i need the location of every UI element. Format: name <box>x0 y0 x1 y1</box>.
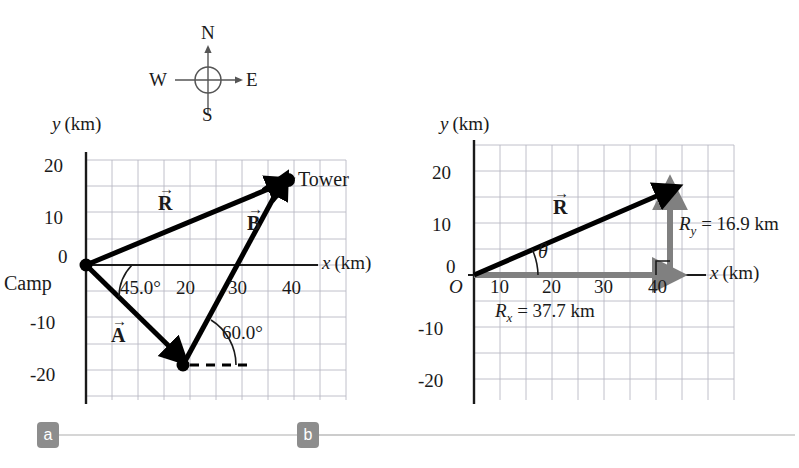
compass-rose <box>175 45 243 113</box>
camp-point <box>80 259 93 272</box>
panel-b-y-axis-label: y (km) <box>440 113 489 135</box>
panel-b-xtick-40: 40 <box>648 276 667 298</box>
panel-a-ytick-20: 20 <box>44 155 63 177</box>
panel-b-badge: b <box>297 422 319 448</box>
panel-b-ytick-neg20: -20 <box>418 370 443 392</box>
panel-a-vector-R-label: → R <box>158 192 172 215</box>
panel-b-ytick-0: 0 <box>446 256 456 278</box>
compass-north-label: N <box>201 22 215 44</box>
panel-b-xtick-20: 20 <box>542 276 561 298</box>
panel-b-xtick-30: 30 <box>594 276 613 298</box>
panel-b-ytick-10: 10 <box>432 214 451 236</box>
panel-b-angle-theta-label: θ <box>538 240 548 263</box>
panel-a-badge: a <box>37 422 59 448</box>
panel-a-ytick-neg10: -10 <box>30 312 55 334</box>
panel-b-xtick-10: 10 <box>490 276 509 298</box>
panel-a-ytick-10: 10 <box>44 207 63 229</box>
compass-west-label: W <box>149 69 167 91</box>
panel-b-vector-R-label: → R <box>553 196 567 219</box>
panel-a-angle-45-label: 45.0° <box>120 277 161 299</box>
panel-b-origin-label: O <box>449 276 463 298</box>
panel-b-Rx-component-label: Rx = 37.7 km <box>495 300 595 326</box>
compass-south-label: S <box>202 104 213 126</box>
panel-a-vector-A-label: → A <box>111 324 125 347</box>
panel-b-ytick-neg10: -10 <box>418 318 443 340</box>
tower-label: Tower <box>298 168 349 191</box>
panel-a-x-axis-label: x (km) <box>322 252 371 274</box>
figure-vector-addition: N E S W y (km) x (km) 20 10 0 -10 -20 20… <box>0 0 799 468</box>
panel-b-ytick-20: 20 <box>432 162 451 184</box>
camp-label: Camp <box>4 272 52 295</box>
vector-R <box>474 192 666 275</box>
compass-east-label: E <box>246 69 258 91</box>
panel-b-Ry-component-label: Ry = 16.9 km <box>679 213 779 239</box>
panel-a-xtick-20: 20 <box>176 277 195 299</box>
panel-a-angle-60-label: 60.0° <box>222 322 263 344</box>
panel-b-x-axis-label: x (km) <box>710 262 759 284</box>
turn-point <box>177 359 190 372</box>
panel-a-vector-B-label: → B <box>247 212 260 235</box>
panel-b-vectors <box>474 192 670 275</box>
panel-a-xtick-30: 30 <box>228 277 247 299</box>
panel-a-ytick-0: 0 <box>58 246 68 268</box>
panel-a-y-axis-label: y (km) <box>52 113 101 135</box>
panel-a-xtick-40: 40 <box>282 277 301 299</box>
tower-point <box>281 173 295 187</box>
panel-a-ytick-neg20: -20 <box>30 364 55 386</box>
